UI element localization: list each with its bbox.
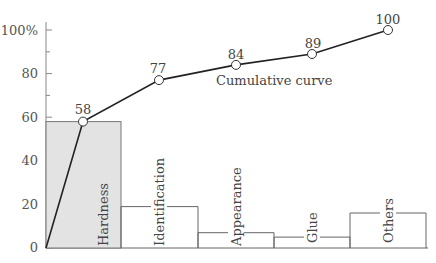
point-label: 77 (150, 61, 167, 76)
y-tick-label: 40 (21, 153, 38, 168)
category-label-glue: Glue (305, 212, 320, 243)
pareto-chart: 0 20 40 60 80 100% Hardness Identificati… (0, 0, 436, 263)
curve-annotation: Cumulative curve (216, 73, 333, 88)
category-label-hardness: Hardness (96, 183, 111, 246)
y-tick-label: 100% (1, 23, 38, 38)
y-tick-label: 60 (21, 110, 38, 125)
category-label-appearance: Appearance (229, 167, 244, 247)
point-marker (79, 117, 88, 126)
point-marker (155, 76, 164, 85)
point-label: 100 (376, 12, 401, 27)
point-label: 89 (305, 36, 322, 51)
point-label: 58 (75, 102, 92, 117)
y-tick-label: 80 (21, 66, 38, 81)
category-label-others: Others (381, 198, 396, 243)
y-tick-label: 0 (30, 240, 38, 255)
category-label-identification: Identification (152, 157, 167, 246)
point-label: 84 (228, 47, 245, 62)
y-tick-label: 20 (21, 197, 38, 212)
